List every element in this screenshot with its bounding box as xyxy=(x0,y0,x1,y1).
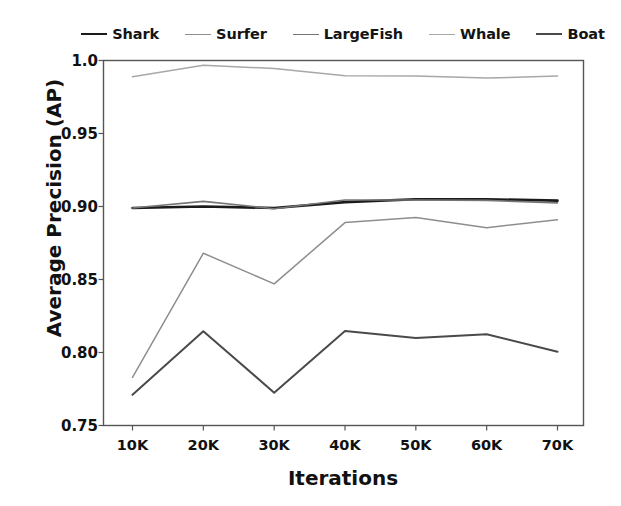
x-axis-title: Iterations xyxy=(103,466,583,490)
y-axis-tickmarks xyxy=(99,61,104,426)
x-tick-label: 20K xyxy=(173,437,233,453)
plot-area xyxy=(0,0,621,506)
x-tick-label: 60K xyxy=(457,437,517,453)
axis-frame xyxy=(104,61,584,426)
x-tick-label: 10K xyxy=(103,437,163,453)
x-tick-label: 50K xyxy=(386,437,446,453)
data-series-group xyxy=(133,65,558,395)
x-tick-label: 70K xyxy=(528,437,588,453)
x-tick-label: 40K xyxy=(315,437,375,453)
series-line-boat xyxy=(133,331,558,395)
series-line-surfer xyxy=(133,217,558,377)
x-tick-label: 30K xyxy=(244,437,304,453)
series-line-whale xyxy=(133,65,558,78)
chart-figure: SharkSurferLargeFishWhaleBoat Average Pr… xyxy=(0,0,621,506)
x-axis-tickmarks xyxy=(133,426,558,431)
